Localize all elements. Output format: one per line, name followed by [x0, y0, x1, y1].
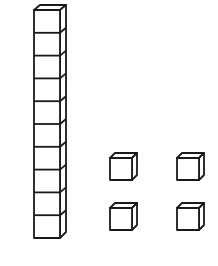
unit-cube [110, 153, 137, 180]
base-ten-blocks-diagram [0, 0, 218, 266]
unit-cube [177, 203, 204, 230]
unit-cube [110, 203, 137, 230]
cube-front-face [110, 158, 132, 180]
cube-front-face [110, 208, 132, 230]
cube-front-face [177, 158, 199, 180]
cube-front-face [177, 208, 199, 230]
ten-rod [34, 5, 66, 238]
unit-cubes-group [110, 153, 204, 230]
unit-cube [177, 153, 204, 180]
